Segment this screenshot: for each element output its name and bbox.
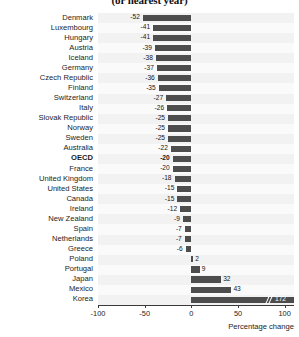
category-label: Ireland: [0, 204, 93, 214]
bar-value-label: -38: [140, 53, 153, 63]
bar-rows: Denmark-52Luxembourg-41Hungary-41Austria…: [0, 0, 299, 305]
bar: [183, 216, 191, 222]
bar-value-label: -37: [141, 63, 154, 73]
bar: [191, 256, 193, 262]
category-label: New Zealand: [0, 214, 93, 224]
bar: [153, 35, 191, 41]
bar-value-label: -27: [150, 93, 163, 103]
x-tick-label: 50: [220, 308, 256, 319]
x-axis-title: Percentage change: [228, 321, 294, 332]
bar-row: Mexico43: [0, 285, 299, 295]
category-label: Korea: [0, 294, 93, 304]
bar: [185, 236, 192, 242]
category-label: United Kingdom: [0, 174, 93, 184]
row-band: [98, 114, 294, 124]
bar-row: Switzerland-27: [0, 94, 299, 104]
category-label: Austria: [0, 43, 93, 53]
bar-value-label: -6: [170, 244, 183, 254]
bar: [177, 186, 191, 192]
bar: [166, 95, 191, 101]
row-band: [98, 164, 294, 174]
bar: [186, 246, 192, 252]
bar: [175, 176, 192, 182]
bar-row: United Kingdom-18: [0, 174, 299, 184]
bar: [156, 55, 191, 61]
bar-value-label: -15: [161, 194, 174, 204]
bar: [167, 105, 191, 111]
bar-value-label: -36: [142, 73, 155, 83]
bar-row: United States-15: [0, 184, 299, 194]
category-label: Switzerland: [0, 93, 93, 103]
bar: [168, 115, 191, 121]
bar-value-label: -22: [155, 143, 168, 153]
bar-value-label: 32: [223, 274, 230, 284]
bar-value-label: -41: [137, 22, 150, 32]
bar-value-label: -15: [161, 183, 174, 193]
category-label: Spain: [0, 224, 93, 234]
bar-value-label: -9: [167, 214, 180, 224]
bar-row: New Zealand-9: [0, 214, 299, 224]
bar-row: France-20: [0, 164, 299, 174]
x-tick-label: -100: [80, 308, 116, 319]
bar-value-label: -25: [152, 133, 165, 143]
bar: [177, 196, 191, 202]
category-label: Denmark: [0, 13, 93, 23]
x-tick-label: 100: [267, 308, 299, 319]
row-band: [98, 144, 294, 154]
bar-row: Korea172: [0, 295, 299, 305]
bar-value-label: -7: [169, 224, 182, 234]
category-label: Poland: [0, 254, 93, 264]
category-label: Norway: [0, 123, 93, 133]
row-band: [98, 224, 294, 234]
bar: [159, 85, 192, 91]
row-band: [98, 154, 294, 164]
category-label: Slovak Republic: [0, 113, 93, 123]
row-band: [98, 184, 294, 194]
category-label: OECD: [0, 153, 93, 163]
bar: [173, 166, 192, 172]
bar: [185, 226, 192, 232]
x-axis-line: [98, 305, 294, 306]
chart-figure: (or nearest year) Denmark-52Luxembourg-4…: [0, 0, 299, 337]
category-label: Australia: [0, 143, 93, 153]
category-label: Canada: [0, 194, 93, 204]
bar-row: Japan32: [0, 275, 299, 285]
bar-row: Poland2: [0, 255, 299, 265]
bar-value-label: 2: [195, 254, 199, 264]
bar: [191, 266, 199, 272]
row-band: [98, 235, 294, 245]
category-label: Germany: [0, 63, 93, 73]
x-tick-label: -50: [127, 308, 163, 319]
bar: [143, 15, 192, 21]
bar-row: Ireland-12: [0, 204, 299, 214]
bar-value-label: -35: [143, 83, 156, 93]
category-label: Luxembourg: [0, 23, 93, 33]
bar-row: Portugal9: [0, 265, 299, 275]
x-tick-label: 0: [173, 308, 209, 319]
category-label: Greece: [0, 244, 93, 254]
category-label: Japan: [0, 274, 93, 284]
category-label: Iceland: [0, 53, 93, 63]
category-label: France: [0, 164, 93, 174]
bar-row: OECD-20: [0, 154, 299, 164]
bar: [171, 146, 192, 152]
category-label: Portugal: [0, 264, 93, 274]
bar-value-label: -41: [137, 32, 150, 42]
bar-value-label: 172: [275, 294, 286, 304]
bar-row: Slovak Republic-25: [0, 114, 299, 124]
bar-value-label: -26: [151, 103, 164, 113]
bar-value-label: -20: [157, 153, 170, 163]
bar: [168, 125, 191, 131]
row-band: [98, 214, 294, 224]
row-band: [98, 174, 294, 184]
bar: [153, 25, 191, 31]
axis-break-mark: [265, 295, 274, 304]
row-band: [98, 204, 294, 214]
row-band: [98, 134, 294, 144]
bar-value-label: 43: [233, 284, 240, 294]
bar: [155, 45, 191, 51]
row-band: [98, 104, 294, 114]
bar: [158, 75, 192, 81]
bar-row: Canada-15: [0, 194, 299, 204]
row-band: [98, 194, 294, 204]
